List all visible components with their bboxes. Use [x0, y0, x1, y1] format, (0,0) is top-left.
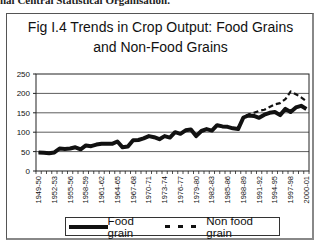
data-series	[39, 92, 307, 154]
y-axis-ticks: 050100150200250	[17, 70, 36, 176]
y-tick-label: 50	[21, 148, 30, 157]
legend-label: Food grain	[108, 215, 161, 239]
x-tick-label: 1958-59	[81, 176, 90, 204]
y-tick-label: 250	[17, 70, 31, 79]
x-tick-label: 1994-95	[270, 176, 279, 204]
x-tick-label: 1997-98	[286, 176, 295, 204]
non-food-grain-line	[39, 92, 307, 154]
x-tick-label: 1979-80	[192, 176, 201, 204]
x-tick-label: 1982-83	[207, 176, 216, 204]
x-tick-label: 2000-01	[302, 176, 311, 204]
legend: Food grain Non food grain	[65, 217, 280, 236]
x-tick-label: 1973-74	[160, 176, 169, 204]
solid-line-swatch-icon	[69, 225, 108, 229]
gridlines	[36, 93, 309, 151]
x-tick-label: 1967-68	[129, 176, 138, 204]
legend-item-non-food-grain: Non food grain	[161, 215, 279, 239]
plot-area	[36, 74, 309, 171]
x-tick-label: 1964-65	[113, 176, 122, 204]
x-tick-label: 1985-86	[223, 176, 232, 204]
y-tick-label: 200	[17, 89, 31, 98]
x-tick-label: 1955-56	[66, 176, 75, 204]
legend-item-food-grain: Food grain	[66, 215, 161, 239]
x-axis-ticks: 1949-501952-531955-561958-591961-621964-…	[34, 171, 311, 204]
x-tick-label: 1976-77	[176, 176, 185, 204]
x-tick-label: 1961-62	[97, 176, 106, 204]
x-tick-label: 1970-71	[144, 176, 153, 204]
dashed-line-swatch-icon	[165, 225, 204, 228]
y-tick-label: 100	[17, 128, 31, 137]
x-tick-label: 1988-89	[239, 176, 248, 204]
line-chart: 050100150200250 1949-501952-531955-56195…	[0, 0, 321, 245]
legend-label: Non food grain	[206, 215, 279, 239]
x-tick-label: 1949-50	[34, 176, 43, 204]
x-tick-label: 1991-92	[255, 176, 264, 204]
y-tick-label: 0	[26, 167, 31, 176]
x-tick-label: 1952-53	[50, 176, 59, 204]
y-tick-label: 150	[17, 109, 31, 118]
